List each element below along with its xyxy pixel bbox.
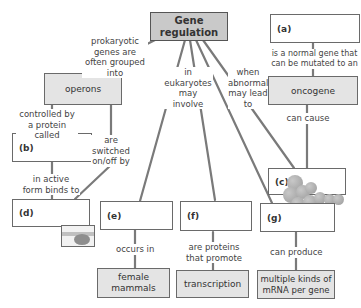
link-label-switched: are switched on/off by [91, 135, 131, 167]
transcription-label: transcription [184, 279, 241, 289]
link-label-normal-gene: is a normal gene that can be mutated to … [268, 49, 361, 69]
link-label-are-proteins: are proteins that promote [186, 242, 242, 263]
link-text: when abnormal may lead to [228, 67, 268, 109]
link-label-can-produce: can produce [270, 247, 322, 258]
link-text: prokaryotic genes are often grouped into [85, 36, 145, 78]
link-text: in eukaryotes may involve [164, 67, 211, 109]
link-label-active-form: in active form binds to [22, 174, 80, 195]
node-a-label: (a) [277, 24, 291, 34]
multiple-mrna-label: multiple kinds of mRNA per gene [260, 274, 332, 296]
blank-node-e[interactable]: (e) [100, 201, 173, 230]
oncogene-label: oncogene [291, 86, 335, 96]
link-label-abnormal: when abnormal may lead to [228, 67, 268, 109]
blank-node-f[interactable]: (f) [180, 201, 252, 231]
link-label-can-cause: can cause [286, 113, 330, 124]
dna-binding-illustration [61, 225, 95, 247]
blank-node-a[interactable]: (a) [270, 14, 360, 43]
node-e-label: (e) [107, 211, 121, 221]
oncogene-node: oncogene [268, 76, 358, 105]
link-text: is a normal gene that can be mutated to … [271, 49, 358, 68]
link-label-controlled-by: controlled by a protein called [16, 109, 78, 141]
link-text: in active form binds to [23, 174, 80, 195]
multiple-mrna-node: multiple kinds of mRNA per gene [257, 270, 335, 299]
node-b-label: (b) [19, 143, 34, 153]
link-text: are proteins that promote [186, 242, 242, 263]
gene-regulation-label: Gene regulation [151, 15, 227, 39]
node-g-label: (g) [267, 213, 282, 223]
transcription-node: transcription [176, 270, 249, 298]
blank-node-d[interactable]: (d) [12, 199, 90, 227]
link-label-occurs-in: occurs in [116, 244, 154, 255]
link-text: can produce [270, 247, 323, 257]
link-text: controlled by a protein called [19, 109, 75, 140]
node-f-label: (f) [187, 211, 199, 221]
link-text: can cause [287, 113, 330, 123]
node-d-label: (d) [19, 208, 34, 218]
operons-label: operons [65, 84, 101, 94]
female-mammals-label: female mammals [110, 272, 157, 294]
link-label-prokaryotic: prokaryotic genes are often grouped into [82, 36, 148, 78]
link-text: are switched on/off by [92, 135, 130, 166]
female-mammals-node: female mammals [97, 268, 170, 298]
blank-node-g[interactable]: (g) [260, 203, 335, 232]
gene-regulation-node: Gene regulation [150, 12, 228, 41]
link-label-eukaryotes: in eukaryotes may involve [163, 67, 213, 109]
link-text: occurs in [116, 244, 154, 254]
